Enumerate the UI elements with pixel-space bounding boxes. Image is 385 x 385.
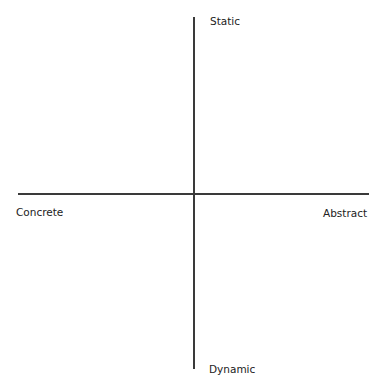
- axis-label-concrete: Concrete: [16, 206, 63, 218]
- axis-label-dynamic: Dynamic: [209, 363, 255, 375]
- axis-label-static: Static: [210, 15, 240, 27]
- quadrant-diagram: Static Dynamic Concrete Abstract: [0, 0, 385, 385]
- vertical-axis-line: [193, 17, 195, 369]
- axis-label-abstract: Abstract: [323, 207, 367, 219]
